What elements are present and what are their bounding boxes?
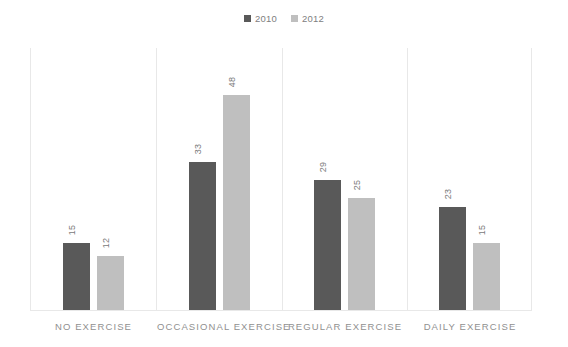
bar-2010[interactable]: 29 (314, 180, 341, 310)
plot-area: 15 12 NO EXERCISE 33 48 OCCASIONAL EXERC… (30, 48, 532, 311)
bar-2012[interactable]: 15 (473, 243, 500, 310)
bar-value-label: 15 (478, 225, 487, 236)
bar-2010[interactable]: 23 (439, 207, 466, 310)
bar-chart: 2010 2012 15 12 NO EXERCISE 33 (0, 0, 568, 347)
bar-value-label: 29 (319, 162, 328, 173)
bar-value-label: 12 (102, 238, 111, 249)
category-label: REGULAR EXERCISE (283, 322, 407, 332)
bar-value-label: 48 (228, 77, 237, 88)
bar-group-regular-exercise: 29 25 REGULAR EXERCISE (283, 48, 407, 311)
bar-2012[interactable]: 48 (223, 95, 250, 310)
bar-2010[interactable]: 33 (189, 162, 216, 310)
bar-2012[interactable]: 12 (97, 256, 124, 310)
bar-value-label: 33 (194, 144, 203, 155)
category-label: NO EXERCISE (31, 322, 156, 332)
legend-item-2010[interactable]: 2010 (244, 14, 277, 24)
bar-group-daily-exercise: 23 15 DAILY EXERCISE (408, 48, 532, 311)
square-swatch-icon (244, 15, 251, 22)
bar-2012[interactable]: 25 (348, 198, 375, 310)
bar-2010[interactable]: 15 (63, 243, 90, 310)
bar-group-no-exercise: 15 12 NO EXERCISE (31, 48, 156, 311)
legend-item-label: 2012 (302, 14, 324, 24)
category-label: OCCASIONAL EXERCISE (157, 322, 282, 332)
bar-group-occasional-exercise: 33 48 OCCASIONAL EXERCISE (157, 48, 282, 311)
bar-value-label: 23 (444, 189, 453, 200)
bar-value-label: 15 (68, 225, 77, 236)
category-label: DAILY EXERCISE (408, 322, 532, 332)
legend-item-2012[interactable]: 2012 (291, 14, 324, 24)
square-swatch-icon (291, 15, 298, 22)
bar-value-label: 25 (353, 180, 362, 191)
chart-legend: 2010 2012 (0, 14, 568, 24)
legend-item-label: 2010 (255, 14, 277, 24)
